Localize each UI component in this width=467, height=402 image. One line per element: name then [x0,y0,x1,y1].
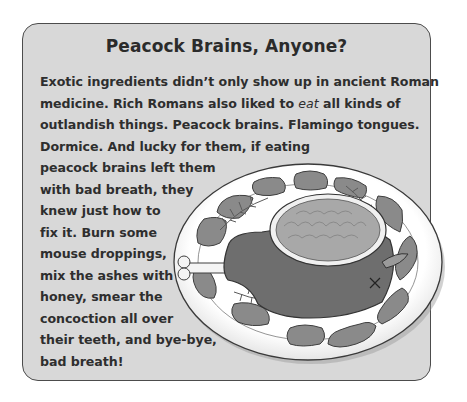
body-line-8: fix it. Burn some [40,225,157,240]
body-line-4: Dormice. And lucky for them, if eating [40,139,310,154]
body-line-10: mix the ashes with [40,268,173,283]
body-line-3: outlandish things. Peacock brains. Flami… [40,117,420,132]
platter-icon [170,160,448,366]
body-line-9: mouse droppings, [40,246,167,261]
body-line-11: honey, smear the [40,289,163,304]
body-line-7: knew just how to [40,203,161,218]
emphasis-text: eat [298,96,318,111]
body-text: medicine. Rich Romans also liked to [40,96,298,111]
body-line-2: medicine. Rich Romans also liked to eat … [40,96,401,111]
body-line-12: concoction all over [40,311,173,326]
body-text: all kinds of [319,96,401,111]
body-line-14: bad breath! [40,354,123,369]
body-line-1: Exotic ingredients didn’t only show up i… [40,74,439,89]
sidebar-title: Peacock Brains, Anyone? [23,36,430,56]
